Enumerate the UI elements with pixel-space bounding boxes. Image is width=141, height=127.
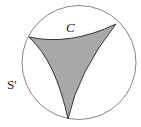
diagram-canvas: C S' [0, 0, 141, 127]
circle-label-s-prime: S' [7, 77, 17, 92]
shaded-region-c [29, 24, 116, 119]
region-label-c: C [66, 20, 75, 35]
